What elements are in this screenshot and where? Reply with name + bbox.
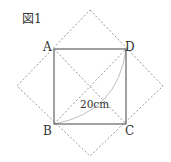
label-a: A: [42, 40, 52, 54]
label-d: D: [125, 40, 135, 54]
figure-diagram: 図1 A D B C 20cm: [0, 0, 171, 162]
label-b: B: [43, 124, 52, 138]
label-c: C: [125, 124, 134, 138]
figure-title: 図1: [22, 12, 42, 26]
measurement-label: 20cm: [80, 98, 109, 110]
outer-dashed-square: [17, 10, 163, 156]
